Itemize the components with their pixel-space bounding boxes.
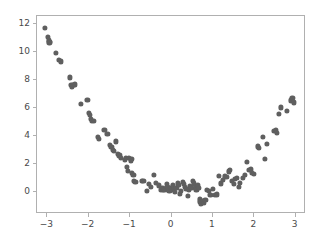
data-point [238,180,243,185]
y-tick-mark [33,191,37,192]
data-point [214,192,219,197]
data-point [274,131,279,136]
data-point [43,25,48,30]
data-point [91,118,96,123]
scatter-points-layer [37,16,304,212]
data-point [105,131,110,136]
data-point [148,184,153,189]
x-tick-label: −2 [81,219,94,229]
data-point [144,188,149,193]
data-point [228,167,233,172]
data-point [96,136,101,141]
y-tick-label: 6 [24,102,30,112]
y-tick-label: 2 [24,158,30,168]
x-tick-mark [46,213,47,217]
data-point [264,141,269,146]
y-tick-mark [33,163,37,164]
x-tick-label: 1 [209,219,215,229]
x-tick-mark [212,213,213,217]
data-point [133,179,138,184]
y-tick-mark [33,79,37,80]
data-point [68,75,73,80]
data-point [85,97,90,102]
data-point [260,135,265,140]
x-tick-label: −1 [122,219,135,229]
data-point [113,139,118,144]
y-tick-mark [33,135,37,136]
data-point [262,156,267,161]
data-point [53,50,58,55]
data-point [244,159,249,164]
y-tick-label: 12 [19,18,30,28]
data-point [185,193,190,198]
data-point [72,82,77,87]
y-tick-label: 0 [24,186,30,196]
y-tick-mark [33,23,37,24]
data-point [129,156,134,161]
y-tick-mark [33,107,37,108]
scatter-plot-figure: −3−2−10123 024681012 [0,0,320,249]
x-tick-label: 2 [250,219,256,229]
y-tick-label: 10 [19,46,30,56]
y-tick-label: 4 [24,130,30,140]
x-tick-label: 0 [168,219,174,229]
data-point [58,59,63,64]
data-point [210,186,215,191]
data-point [203,197,208,202]
x-tick-label: −3 [40,219,53,229]
data-point [243,172,248,177]
x-tick-mark [171,213,172,217]
data-point [257,145,262,150]
x-tick-label: 3 [292,219,298,229]
data-point [284,108,289,113]
y-tick-label: 8 [24,74,30,84]
data-point [291,100,296,105]
x-tick-mark [129,213,130,217]
x-tick-mark [88,213,89,217]
data-point [252,171,257,176]
x-tick-mark [253,213,254,217]
data-point [79,101,84,106]
y-tick-mark [33,51,37,52]
data-point [196,185,201,190]
plot-axes-frame [36,15,305,213]
data-point [277,112,282,117]
data-point [131,172,136,177]
data-point [141,178,146,183]
data-point [279,105,284,110]
data-point [152,172,157,177]
x-tick-mark [295,213,296,217]
data-point [48,39,53,44]
